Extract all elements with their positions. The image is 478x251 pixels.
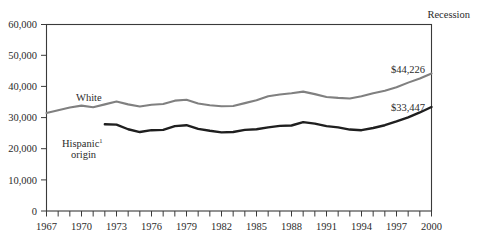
y-tick-label-0: 0 [32,206,37,217]
hispanic-endpoint-value: $33,447 [391,102,425,113]
y-tick-label-20000: 20,000 [8,143,37,154]
x-tick-label-1976: 1976 [141,221,162,232]
y-tick-label-30000: 30,000 [8,112,37,123]
x-tick-label-1982: 1982 [211,221,232,232]
income-line-chart: 0 10,000 20,000 30,000 40,000 50,000 60,… [0,0,478,251]
series-label-white: White [76,92,102,103]
x-tick-label-1973: 1973 [106,221,127,232]
series-label-hispanic-line2: origin [71,149,97,160]
y-tick-label-40000: 40,000 [8,81,37,92]
chart-figure: 0 10,000 20,000 30,000 40,000 50,000 60,… [0,0,478,251]
series-label-hispanic-footnote: 1 [99,137,102,144]
recession-label: Recession [427,9,470,20]
series-line-hispanic [105,107,432,132]
plot-area-border [47,25,432,212]
x-tick-label-1991: 1991 [316,221,337,232]
x-tick-label-2000: 2000 [421,221,442,232]
y-tick-label-60000: 60,000 [8,19,37,30]
x-tick-label-1997: 1997 [386,221,407,232]
y-tick-label-50000: 50,000 [8,50,37,61]
svg-text:Hispanic1: Hispanic1 [62,137,103,149]
x-tick-label-1979: 1979 [176,221,197,232]
y-axis-labels: 0 10,000 20,000 30,000 40,000 50,000 60,… [8,19,37,217]
series-label-hispanic: Hispanic1 origin [62,137,103,160]
series-label-hispanic-text: Hispanic [62,138,100,149]
x-tick-label-1970: 1970 [71,221,92,232]
x-axis-ticks [47,211,432,217]
y-axis-ticks [41,25,47,212]
x-tick-label-1988: 1988 [281,221,302,232]
x-tick-label-1994: 1994 [351,221,373,232]
series-line-white [47,74,432,114]
white-endpoint-value: $44,226 [391,64,425,75]
x-tick-label-1967: 1967 [36,221,57,232]
x-axis-labels: 1967197019731976197919821985198819911994… [36,221,442,232]
y-tick-label-10000: 10,000 [8,175,37,186]
x-tick-label-1985: 1985 [246,221,267,232]
